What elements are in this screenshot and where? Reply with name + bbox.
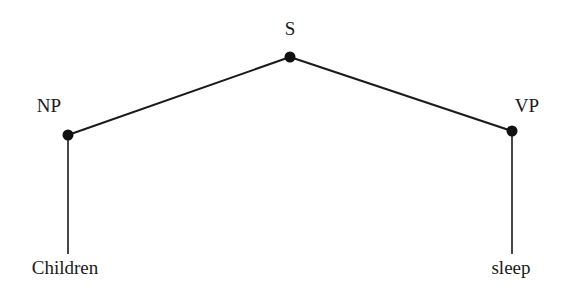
edge-s-vp [290, 57, 512, 131]
label-s: S [285, 18, 296, 39]
leaf-sleep: sleep [491, 257, 530, 278]
leaf-children: Children [32, 257, 99, 278]
label-vp: VP [515, 95, 539, 116]
syntax-tree-diagram: S NP VP Children sleep [0, 0, 572, 296]
label-np: NP [37, 95, 61, 116]
node-vp [507, 126, 518, 137]
node-s [285, 52, 296, 63]
edge-s-np [68, 57, 290, 135]
node-np [63, 130, 74, 141]
